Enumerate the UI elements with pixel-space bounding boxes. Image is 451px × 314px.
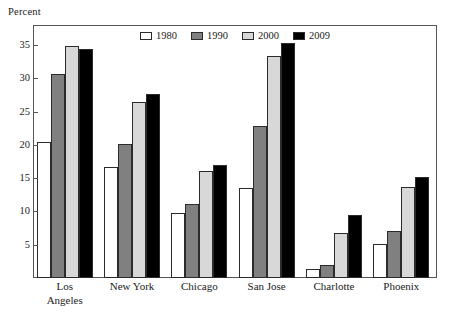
bar-charlotte-2000 [334,233,348,278]
bar-san-jose-2009 [281,43,295,278]
y-tick-10 [33,211,38,212]
bar-new-york-2000 [132,102,146,278]
x-axis-labels: LosAngelesNew YorkChicagoSan JoseCharlot… [33,280,437,314]
bar-san-jose-1980 [239,188,253,278]
y-tick-35 [33,45,38,46]
bar-new-york-1990 [118,144,132,278]
x-axis-label-line: San Jose [248,280,286,292]
bar-charlotte-1990 [320,265,334,278]
y-tick-label-15: 15 [2,173,30,184]
bar-chicago-2009 [213,165,227,278]
bar-los-angeles-2009 [79,49,93,278]
x-axis-label-line: Los [56,280,73,292]
bar-chart: Percent 5101520253035 1980199020002009 L… [0,0,451,314]
y-axis-labels: 5101520253035 [0,0,30,314]
bar-new-york-2009 [146,94,160,278]
y-tick-label-35: 35 [2,40,30,51]
plot-area [33,25,437,278]
y-tick-30 [33,78,38,79]
y-tick-label-10: 10 [2,206,30,217]
x-axis-label-line: Angeles [15,294,115,308]
bar-new-york-1980 [104,167,118,278]
y-tick-20 [33,145,38,146]
x-axis-label-line: Chicago [181,280,218,292]
bar-phoenix-1980 [373,244,387,278]
bar-chicago-2000 [199,171,213,278]
bar-san-jose-2000 [267,56,281,278]
bar-charlotte-1980 [306,269,320,278]
bar-charlotte-2009 [348,215,362,278]
y-tick-label-20: 20 [2,140,30,151]
bar-san-jose-1990 [253,126,267,278]
bar-group-phoenix [373,25,429,278]
y-tick-label-25: 25 [2,106,30,117]
bar-phoenix-1990 [387,231,401,278]
x-axis-label-line: Charlotte [314,280,355,292]
x-axis-label-line: New York [110,280,155,292]
y-tick-label-30: 30 [2,73,30,84]
y-tick-15 [33,178,38,179]
y-tick-25 [33,112,38,113]
y-tick-label-5: 5 [2,239,30,250]
bar-group-new-york [104,25,160,278]
bar-los-angeles-1990 [51,74,65,278]
bar-phoenix-2000 [401,187,415,278]
bar-los-angeles-1980 [37,142,51,278]
bar-los-angeles-2000 [65,46,79,278]
bar-chicago-1980 [171,213,185,278]
x-axis-label-phoenix: Phoenix [351,280,451,294]
bar-phoenix-2009 [415,177,429,278]
bar-group-los-angeles [37,25,93,278]
bar-group-chicago [171,25,227,278]
bar-group-charlotte [306,25,362,278]
bar-group-san-jose [239,25,295,278]
bar-chicago-1990 [185,204,199,278]
y-tick-5 [33,245,38,246]
x-axis-label-line: Phoenix [383,280,419,292]
